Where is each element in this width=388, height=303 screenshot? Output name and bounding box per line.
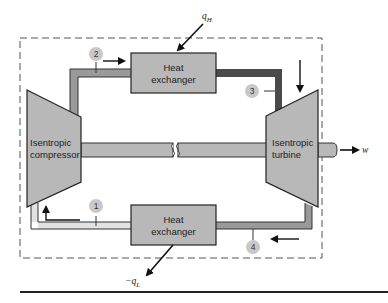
bottom-rule bbox=[20, 291, 388, 293]
compressor-label-line1: Isentropic bbox=[30, 137, 71, 148]
turbine-label-line2: turbine bbox=[272, 149, 301, 160]
work-out-label: w bbox=[362, 145, 369, 155]
svg-text:2: 2 bbox=[94, 49, 99, 59]
flow-arrow-state-1 bbox=[46, 207, 80, 220]
hx-bottom-label-line1: Heat bbox=[163, 214, 183, 225]
hx-top-label-line2: exchanger bbox=[151, 74, 195, 85]
state-marker-4: 4 bbox=[246, 229, 260, 254]
brayton-cycle-diagram: Isentropic compressor Isentropic turbine… bbox=[0, 0, 388, 303]
heat-in-label: qH bbox=[202, 11, 213, 24]
pipe-state-4 bbox=[216, 203, 312, 229]
heat-out-label: −qL bbox=[125, 276, 140, 289]
heat-out-arrow bbox=[147, 245, 173, 275]
svg-text:4: 4 bbox=[251, 242, 256, 252]
state-marker-3: 3 bbox=[245, 84, 275, 98]
hx-top-label-line1: Heat bbox=[163, 62, 183, 73]
svg-text:3: 3 bbox=[250, 86, 255, 96]
heat-exchanger-top: Heat exchanger bbox=[131, 53, 216, 93]
heat-in-arrow bbox=[178, 24, 203, 50]
heat-exchanger-bottom: Heat exchanger bbox=[131, 205, 216, 245]
compressor-label-line2: compressor bbox=[30, 149, 80, 160]
turbine-label-line1: Isentropic bbox=[272, 137, 313, 148]
svg-text:1: 1 bbox=[94, 201, 99, 211]
pipe-state-2 bbox=[70, 69, 131, 117]
turbine: Isentropic turbine bbox=[266, 90, 318, 207]
hx-bottom-label-line2: exchanger bbox=[151, 226, 195, 237]
